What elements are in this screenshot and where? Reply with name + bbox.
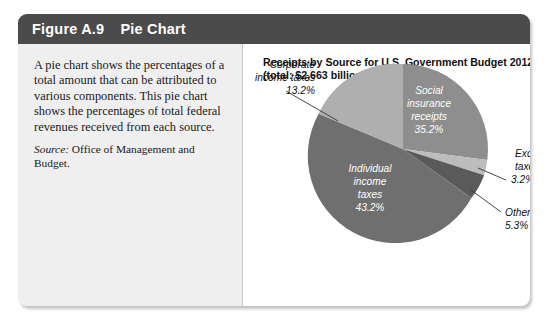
figure-card: Figure A.9 Pie Chart A pie chart shows t… — [18, 14, 530, 306]
label-individual-line-2: income — [354, 176, 387, 187]
label-social-line-3: receipts — [411, 111, 447, 122]
source-word: Source: — [34, 143, 69, 155]
label-social-percent: 35.2% — [415, 124, 444, 135]
figure-header: Figure A.9 Pie Chart — [18, 14, 530, 44]
figure-title: Pie Chart — [120, 21, 185, 37]
label-social-line-2: insurance — [407, 98, 452, 109]
label-individual-line-3: taxes — [358, 189, 382, 200]
label-other: Other 5.3% — [505, 207, 530, 231]
label-corporate-percent: 13.2% — [286, 85, 315, 96]
source-line: Source: Office of Management and Budget. — [34, 142, 228, 171]
pie-slices — [308, 64, 488, 243]
label-excise-percent: 3.2% — [511, 174, 530, 185]
label-excise-taxes: Excise taxes 3.2% — [511, 148, 530, 185]
label-corporate-line-1: Corporate — [270, 59, 316, 70]
description-paragraph: A pie chart shows the percentages of a t… — [34, 58, 228, 135]
figure-body: A pie chart shows the percentages of a t… — [18, 44, 530, 306]
leader-line-other — [471, 190, 501, 212]
label-individual-percent: 43.2% — [356, 202, 385, 213]
pie-chart-svg: Social insurance receipts 35.2% Individu… — [243, 44, 530, 306]
description-panel: A pie chart shows the percentages of a t… — [18, 44, 242, 306]
chart-panel: Receipts by Source for U.S. Government B… — [243, 44, 530, 306]
label-excise-line-1: Excise — [515, 148, 530, 159]
label-other-percent: 5.3% — [505, 220, 528, 231]
label-social-line-1: Social — [415, 85, 443, 96]
label-corporate-line-2: income taxes — [255, 72, 315, 83]
label-excise-line-2: taxes — [515, 161, 530, 172]
figure-number-label: Figure A.9 — [32, 21, 104, 37]
label-individual-line-1: Individual — [348, 163, 392, 174]
label-other-line-1: Other — [505, 207, 530, 218]
label-corporate-income-taxes: Corporate income taxes 13.2% — [255, 59, 315, 96]
